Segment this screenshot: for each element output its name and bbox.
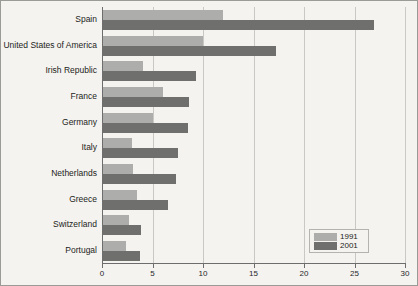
x-axis-tick-label: 5 (150, 269, 154, 278)
legend-swatch (314, 242, 337, 250)
bar-2001 (102, 225, 141, 235)
x-axis-tick-label: 25 (350, 269, 359, 278)
x-axis-tick-label: 10 (199, 269, 208, 278)
bar-1991 (102, 61, 143, 71)
y-axis-line (102, 7, 103, 264)
bar-chart: SpainUnited States of AmericaIrish Repub… (0, 0, 418, 286)
bar-1991 (102, 215, 129, 225)
chart-category-group: Irish Republic (102, 58, 405, 84)
x-axis-tick-label: 15 (249, 269, 258, 278)
category-label: France (71, 92, 97, 101)
x-axis-tick (355, 264, 356, 268)
gridline (405, 7, 406, 264)
x-axis-tick (153, 264, 154, 268)
bar-2001 (102, 71, 196, 81)
chart-category-group: Germany (102, 110, 405, 136)
chart-category-group: Spain (102, 7, 405, 33)
category-label: Netherlands (51, 169, 97, 178)
bar-1991 (102, 138, 132, 148)
x-axis-tick (102, 264, 103, 268)
chart-category-group: Italy (102, 136, 405, 162)
bar-1991 (102, 241, 126, 251)
category-label: Portugal (65, 246, 97, 255)
bar-2001 (102, 97, 189, 107)
legend-label: 2001 (340, 241, 358, 251)
legend-swatch (314, 233, 337, 241)
chart-category-group: United States of America (102, 33, 405, 59)
x-axis-tick (203, 264, 204, 268)
bar-2001 (102, 148, 178, 158)
chart-category-group: Greece (102, 187, 405, 213)
bar-1991 (102, 113, 153, 123)
bar-1991 (102, 164, 133, 174)
bar-2001 (102, 46, 276, 56)
x-axis-tick (304, 264, 305, 268)
bar-2001 (102, 174, 176, 184)
bar-1991 (102, 190, 137, 200)
category-label: Italy (81, 143, 97, 152)
x-axis-tick-label: 30 (401, 269, 410, 278)
bar-1991 (102, 10, 223, 20)
plot-area: SpainUnited States of AmericaIrish Repub… (102, 7, 405, 264)
x-axis-tick (254, 264, 255, 268)
bar-1991 (102, 36, 203, 46)
bar-2001 (102, 251, 140, 261)
x-axis-tick (405, 264, 406, 268)
bar-1991 (102, 87, 163, 97)
category-label: Switzerland (53, 220, 97, 229)
chart-category-group: France (102, 84, 405, 110)
bar-2001 (102, 123, 188, 133)
x-axis-tick-label: 20 (300, 269, 309, 278)
category-label: Germany (62, 118, 97, 127)
chart-legend: 19912001 (309, 229, 369, 253)
chart-category-group: Netherlands (102, 161, 405, 187)
category-label: Irish Republic (46, 66, 98, 75)
bar-2001 (102, 20, 374, 30)
bar-2001 (102, 200, 168, 210)
category-label: Greece (69, 195, 97, 204)
category-label: Spain (75, 15, 97, 24)
x-axis-tick-label: 0 (100, 269, 104, 278)
category-label: United States of America (3, 41, 97, 50)
